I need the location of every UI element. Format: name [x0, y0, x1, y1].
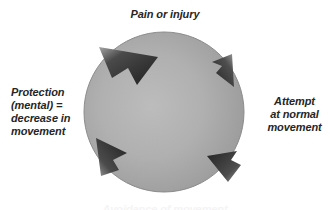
label-pain-or-injury: Pain or injury: [0, 8, 330, 21]
label-bottom-cropped: Avoidance of movement: [0, 203, 330, 210]
label-protection-decrease-movement: Protection (mental) = decrease in moveme…: [11, 86, 89, 138]
pain-cycle-diagram: Pain or injury Protection (mental) = dec…: [0, 0, 330, 210]
label-attempt-normal-movement: Attempt at normal movement: [259, 95, 330, 134]
